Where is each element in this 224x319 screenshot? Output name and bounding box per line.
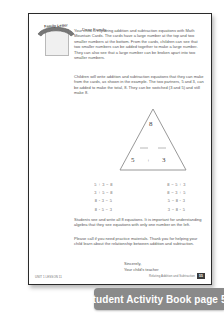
equations-right-column: 8 = 5 + 3 8 = 3 + 5 5 = 8 - 3 3 = 8 - 5: [148, 182, 205, 212]
paragraph-2: Children will write addition and subtrac…: [74, 74, 205, 96]
footer-unit-lesson: UNIT 1 LESSON 11: [35, 275, 62, 279]
mountain-total: 8: [149, 120, 153, 128]
mountain-partner-left: 5: [131, 156, 135, 164]
equation-item: 8 - 3 = 5: [75, 198, 132, 203]
equation-item: 8 - 5 = 3: [75, 207, 132, 212]
mountain-partner-right: 3: [162, 156, 166, 164]
signoff-signer: Your child's teacher: [124, 267, 159, 273]
equation-item: 5 = 8 - 3: [148, 198, 205, 203]
paragraph-1: Your child is exploring addition and sub…: [74, 28, 205, 60]
footer-lesson-title: Relating Addition and Subtraction: [149, 274, 195, 278]
mountain-operator: +: [147, 158, 150, 163]
equation-item: 8 = 3 + 5: [148, 190, 205, 195]
worksheet-page: Family Letter Dear Family, Your child is…: [28, 13, 212, 285]
signoff: Sincerely, Your child's teacher: [124, 261, 159, 272]
caption-banner: Student Activity Book page 55: [94, 288, 224, 310]
paragraph-3: Students see and write all 8 equations. …: [74, 217, 205, 228]
equation-item: 3 + 5 = 8: [75, 190, 132, 195]
equation-item: 3 = 8 - 5: [148, 207, 205, 212]
caption-text: Student Activity Book page 55: [86, 294, 224, 305]
family-letter-badge: Family Letter: [37, 23, 75, 55]
math-mountain-diagram: 8 5 + 3: [117, 106, 189, 174]
equations-left-column: 5 + 3 = 8 3 + 5 = 8 8 - 3 = 5 8 - 5 = 3: [75, 182, 132, 212]
sheet-footer: UNIT 1 LESSON 11 Relating Addition and S…: [35, 273, 205, 279]
equations-block: 5 + 3 = 8 3 + 5 = 8 8 - 3 = 5 8 - 5 = 3 …: [75, 182, 205, 212]
equation-item: 5 + 3 = 8: [75, 182, 132, 187]
paragraph-4: Please call if you need practice materia…: [74, 236, 205, 247]
equation-item: 8 = 5 + 3: [148, 182, 205, 187]
footer-page-number: 55: [197, 273, 205, 279]
footer-right: Relating Addition and Subtraction 55: [149, 273, 205, 279]
